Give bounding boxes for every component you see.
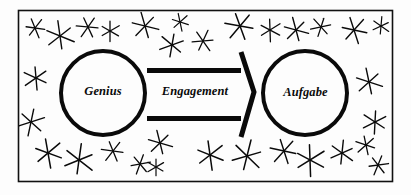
arrow-bottom-bar	[147, 116, 241, 121]
diagram-canvas: Genius Engagement Aufgabe	[0, 0, 411, 195]
node-label-genius: Genius	[60, 85, 146, 98]
node-label-aufgabe: Aufgabe	[262, 86, 349, 99]
connector-label-engagement: Engagement	[152, 85, 238, 98]
arrow-top-bar	[147, 68, 241, 73]
